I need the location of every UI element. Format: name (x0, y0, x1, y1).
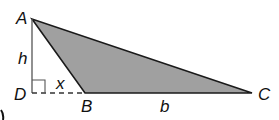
triangle-diagram: A h x D B b C (0, 0, 279, 120)
diagram-figure (0, 0, 279, 120)
point-label-c: C (258, 86, 270, 103)
right-angle-mark (32, 80, 45, 93)
point-label-b: B (81, 98, 92, 115)
triangle-abc (32, 19, 252, 93)
arc-fragment (1, 110, 3, 120)
point-label-d: D (14, 86, 26, 103)
point-label-a: A (16, 10, 27, 27)
side-label-x: x (56, 75, 65, 92)
side-label-b: b (160, 98, 169, 115)
side-label-h: h (18, 50, 27, 67)
